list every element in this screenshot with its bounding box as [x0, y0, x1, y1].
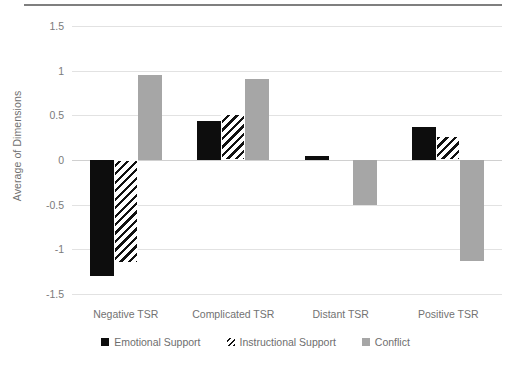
- bar-emotional[interactable]: [90, 160, 114, 276]
- bar-group: [287, 26, 395, 294]
- x-axis-label: Distant TSR: [313, 308, 369, 320]
- chart-top-border: [24, 4, 502, 6]
- y-axis-tick-label: 1.5: [49, 20, 64, 32]
- y-axis-tick-label: -0.5: [46, 199, 64, 211]
- legend-item[interactable]: Instructional Support: [227, 336, 336, 348]
- legend-label: Emotional Support: [114, 336, 200, 348]
- legend-label: Conflict: [375, 336, 410, 348]
- gridline: [72, 294, 502, 295]
- legend-swatch-emotional: [101, 338, 109, 346]
- bar-group-inner: [180, 26, 288, 294]
- legend-item[interactable]: Emotional Support: [101, 336, 200, 348]
- x-axis-label: Negative TSR: [93, 308, 158, 320]
- x-axis-label: Positive TSR: [418, 308, 479, 320]
- y-axis-tick-label: -1: [55, 243, 64, 255]
- bar-emotional[interactable]: [197, 121, 221, 160]
- y-axis-tick-label: 0.5: [49, 109, 64, 121]
- bar-emotional[interactable]: [412, 127, 436, 160]
- y-axis-tick-label: 1: [58, 65, 64, 77]
- bar-instructional[interactable]: [114, 160, 138, 263]
- y-axis-tick-label: 0: [58, 154, 64, 166]
- bar-group-inner: [72, 26, 180, 294]
- y-axis-title: Average of Dimensions: [11, 71, 23, 221]
- bar-group: [395, 26, 503, 294]
- bar-conflict[interactable]: [245, 79, 269, 160]
- bar-group: [180, 26, 288, 294]
- y-axis-tick-label: -1.5: [46, 288, 64, 300]
- bar-group-inner: [287, 26, 395, 294]
- bar-chart: Average of Dimensions 1.510.50-0.5-1-1.5…: [0, 0, 511, 369]
- bar-conflict[interactable]: [138, 75, 162, 160]
- bar-instructional[interactable]: [221, 114, 245, 160]
- legend-label: Instructional Support: [240, 336, 336, 348]
- legend-swatch-instructional: [227, 338, 235, 346]
- bar-conflict[interactable]: [460, 160, 484, 261]
- bar-instructional[interactable]: [436, 136, 460, 160]
- bar-conflict[interactable]: [353, 160, 377, 205]
- bar-emotional[interactable]: [305, 156, 329, 160]
- legend-item[interactable]: Conflict: [362, 336, 410, 348]
- x-axis-label: Complicated TSR: [192, 308, 274, 320]
- chart-legend: Emotional SupportInstructional SupportCo…: [0, 336, 511, 348]
- legend-swatch-conflict: [362, 338, 370, 346]
- bar-group-inner: [395, 26, 503, 294]
- plot-area: 1.510.50-0.5-1-1.5 Negative TSRComplicat…: [72, 26, 502, 294]
- bar-group: [72, 26, 180, 294]
- bar-groups: [72, 26, 502, 294]
